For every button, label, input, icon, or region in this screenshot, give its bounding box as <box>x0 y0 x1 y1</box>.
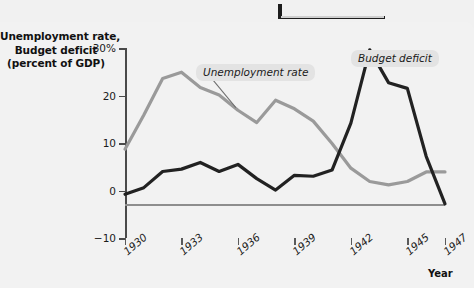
callout-budget-deficit: Budget deficit <box>351 50 439 67</box>
line-unemployment-rate <box>125 72 445 185</box>
x-axis-title: Year <box>428 268 453 279</box>
y-axis-title-line-3: (percent of GDP) <box>0 57 112 71</box>
top-bracket-rule-shadow <box>281 16 384 18</box>
y-tick-label: 0 <box>109 185 116 197</box>
y-tick-label: 30% <box>93 42 116 54</box>
callout-unemployment-rate: Unemployment rate <box>196 64 315 81</box>
figure-screenshot: Unemployment rate, Budget deficit (perce… <box>0 0 474 288</box>
y-tick-label: 10 <box>103 137 116 149</box>
y-tick-label: −10 <box>94 232 116 244</box>
y-tick-label: 20 <box>103 90 116 102</box>
